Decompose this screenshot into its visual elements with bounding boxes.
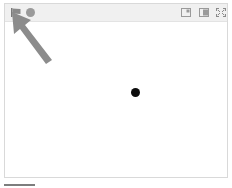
sprite-dot[interactable]	[131, 88, 140, 97]
normal-stage-icon[interactable]	[199, 8, 209, 17]
small-stage-icon[interactable]	[181, 8, 191, 17]
annotation-arrow-icon	[0, 0, 60, 70]
fullscreen-icon[interactable]	[216, 8, 226, 17]
bottom-tab-indicator	[4, 184, 35, 186]
